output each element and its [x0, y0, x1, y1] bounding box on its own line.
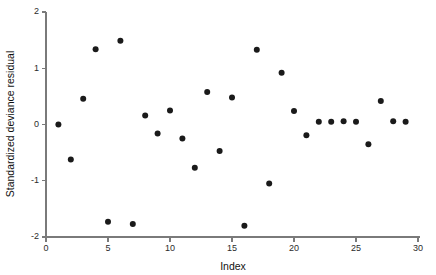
y-tick-label: 2: [34, 6, 39, 16]
data-point: [390, 118, 396, 124]
data-point: [266, 181, 272, 187]
x-tick-label: 5: [105, 243, 110, 253]
x-tick-label: 30: [413, 243, 423, 253]
data-point: [378, 98, 384, 104]
data-points: [55, 38, 408, 229]
residual-scatter-figure: -2-1012 051015202530 Index Standardized …: [0, 0, 436, 275]
y-tick-label: 0: [34, 119, 39, 129]
x-tick-label: 25: [351, 243, 361, 253]
data-point: [192, 165, 198, 171]
data-point: [353, 119, 359, 125]
y-tick-label: -2: [31, 231, 39, 241]
data-point: [254, 47, 260, 53]
y-axis-title: Standardized deviance residual: [4, 51, 16, 198]
x-axis-title: Index: [220, 260, 246, 272]
data-point: [105, 219, 111, 225]
data-point: [229, 95, 235, 101]
data-point: [167, 107, 173, 113]
scatter-plot-canvas: -2-1012 051015202530 Index Standardized …: [0, 0, 436, 275]
data-point: [179, 136, 185, 142]
data-point: [68, 156, 74, 162]
axes: [46, 12, 420, 237]
data-point: [365, 141, 371, 147]
data-point: [117, 38, 123, 44]
data-point: [142, 113, 148, 119]
x-tick-label: 15: [227, 243, 237, 253]
y-tick-label: -1: [31, 175, 39, 185]
data-point: [316, 119, 322, 125]
data-point: [341, 118, 347, 124]
data-point: [155, 131, 161, 137]
data-point: [241, 223, 247, 229]
x-tick-label: 0: [43, 243, 48, 253]
x-tick-label: 10: [165, 243, 175, 253]
data-point: [279, 70, 285, 76]
data-point: [403, 119, 409, 125]
data-point: [303, 132, 309, 138]
data-point: [80, 96, 86, 102]
x-axis-ticks: 051015202530: [43, 237, 423, 253]
data-point: [291, 108, 297, 114]
data-point: [217, 148, 223, 154]
data-point: [55, 122, 61, 128]
data-point: [204, 89, 210, 95]
data-point: [93, 46, 99, 52]
data-point: [328, 119, 334, 125]
x-tick-label: 20: [289, 243, 299, 253]
y-axis-ticks: -2-1012: [31, 6, 46, 241]
y-tick-label: 1: [34, 63, 39, 73]
data-point: [130, 221, 136, 227]
